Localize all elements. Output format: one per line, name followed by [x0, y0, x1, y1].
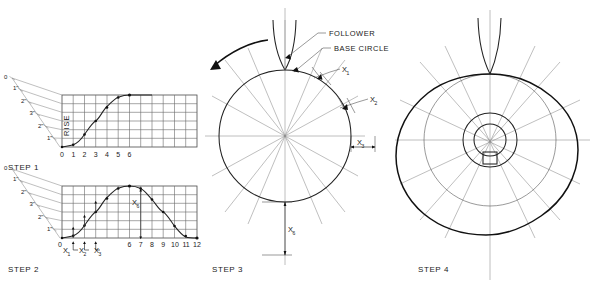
drawing-sheet: 0 1" 2" 3" 2" 1" RISE 0 1 2 3 4 5 6	[0, 0, 605, 290]
svg-text:4: 4	[105, 151, 109, 158]
svg-text:6: 6	[128, 151, 132, 158]
step1-label: STEP 1	[8, 163, 39, 172]
step2-div-4: 2"	[38, 214, 43, 220]
svg-text:1: 1	[68, 251, 71, 257]
step1-div-0: 0	[4, 74, 8, 80]
step1-division-construction: 0 1" 2" 3" 2" 1"	[4, 74, 62, 147]
step3-dim-x1: X 1	[312, 65, 350, 85]
step3-label: STEP 3	[212, 265, 243, 274]
svg-text:8: 8	[150, 241, 154, 248]
base-circle-note: BASE CIRCLE	[334, 44, 389, 53]
step1-rise-label: RISE	[62, 114, 71, 136]
step3-follower-icon	[273, 20, 296, 70]
step2-grid	[62, 186, 197, 238]
svg-text:3: 3	[94, 151, 98, 158]
step3-annotation-base-circle: BASE CIRCLE	[292, 44, 389, 73]
step1-div-5: 1"	[47, 135, 52, 141]
step2-x6-label: X 6	[132, 198, 140, 209]
step2-div-3: 3"	[30, 201, 35, 207]
step2-div-2: 2"	[21, 189, 26, 195]
svg-text:12: 12	[193, 241, 201, 248]
svg-text:2: 2	[83, 151, 87, 158]
step2-label: STEP 2	[8, 265, 39, 274]
step4-group: STEP 4	[395, 10, 590, 280]
step2-group: 0 1" 2" 3" 2" 1"	[4, 165, 201, 274]
step3-dim-x3: X 3	[351, 136, 376, 152]
svg-text:11: 11	[183, 241, 190, 248]
step4-follower-icon	[478, 18, 501, 74]
svg-text:5: 5	[116, 151, 120, 158]
step3-dim-x6: X 6	[262, 202, 296, 256]
svg-text:6: 6	[128, 241, 132, 248]
step1-x-ticks: 0 1 2 3 4 5 6	[60, 151, 132, 158]
follower-note: FOLLOWER	[329, 29, 375, 38]
step2-div-5: 1"	[47, 226, 52, 232]
step2-div-1: 1"	[13, 176, 18, 182]
svg-text:1: 1	[347, 70, 350, 76]
step2-dim-x1: X 1	[63, 246, 71, 257]
svg-text:10: 10	[171, 241, 179, 248]
svg-text:3: 3	[362, 143, 365, 149]
svg-text:6: 6	[137, 203, 140, 209]
svg-text:9: 9	[161, 241, 165, 248]
step4-label: STEP 4	[418, 265, 449, 274]
step3-rotation-arrow	[210, 40, 268, 70]
step3-group: FOLLOWER BASE CIRCLE X 1	[205, 8, 389, 274]
step1-div-1: 1"	[13, 85, 18, 91]
step2-dim-x3: X 3	[94, 246, 102, 257]
step1-group: 0 1" 2" 3" 2" 1" RISE 0 1 2 3 4 5 6	[4, 74, 197, 172]
step4-cam-profile	[396, 74, 578, 235]
svg-text:0: 0	[60, 151, 64, 158]
svg-text:2: 2	[375, 100, 378, 106]
svg-text:6: 6	[293, 230, 296, 236]
svg-text:3: 3	[99, 251, 102, 257]
svg-text:2: 2	[84, 251, 87, 257]
cam-construction-figure: 0 1" 2" 3" 2" 1" RISE 0 1 2 3 4 5 6	[0, 0, 605, 290]
step1-div-2: 2"	[21, 98, 26, 104]
step2-division-construction: 0 1" 2" 3" 2" 1"	[4, 165, 62, 238]
svg-text:7: 7	[139, 241, 143, 248]
step1-div-3: 3"	[30, 110, 35, 116]
step1-grid	[62, 95, 197, 147]
svg-text:1: 1	[72, 151, 76, 158]
step2-dim-x2: X 2	[79, 246, 87, 257]
svg-text:0: 0	[58, 241, 62, 248]
step1-div-4: 2"	[38, 123, 43, 129]
